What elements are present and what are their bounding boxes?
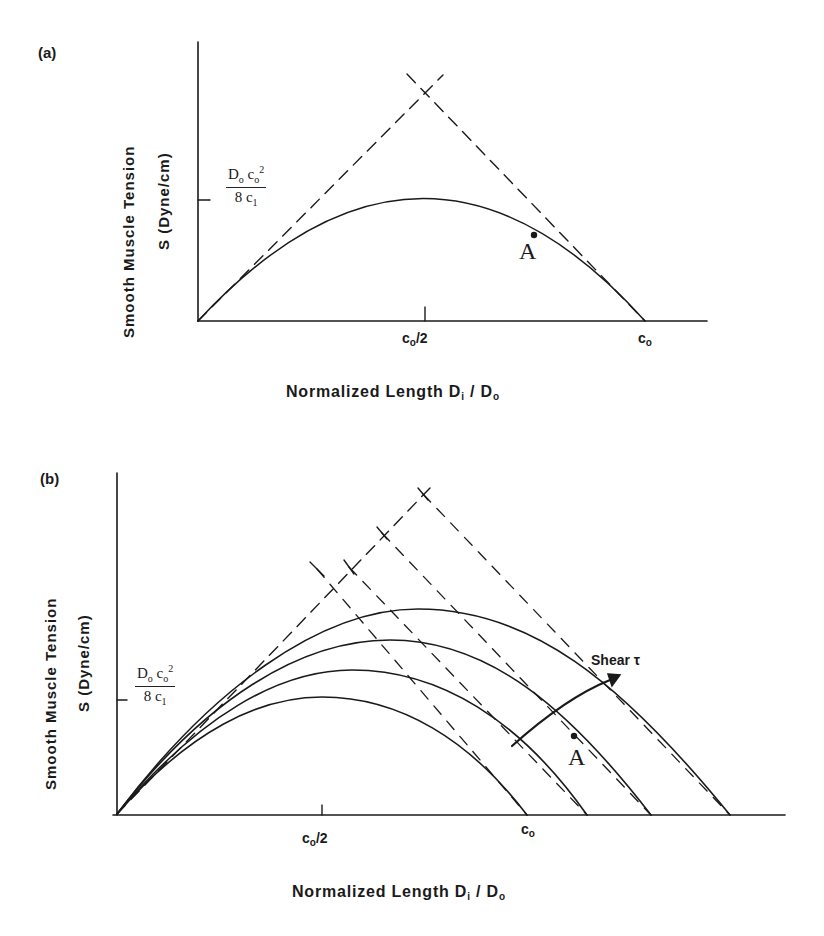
panel-a-tension-curve — [198, 199, 645, 322]
shear-arrow — [512, 674, 620, 746]
panel-b-ascending-asymptote — [117, 488, 430, 814]
panel-b-tension-curves — [117, 609, 730, 815]
panel-a-asymptotes — [198, 74, 645, 321]
panel-a-axes — [198, 42, 707, 321]
panel-b-axes — [113, 473, 785, 815]
panel-a-point-a — [531, 232, 537, 238]
panel-b-descending-asymptotes — [317, 494, 730, 815]
panel-b-curve-4 — [117, 609, 730, 815]
chart-graphics — [0, 0, 824, 936]
panel-b-point-a — [571, 733, 577, 739]
panel-b-curve-1 — [117, 697, 527, 815]
panel-b-curve-3 — [117, 640, 651, 815]
